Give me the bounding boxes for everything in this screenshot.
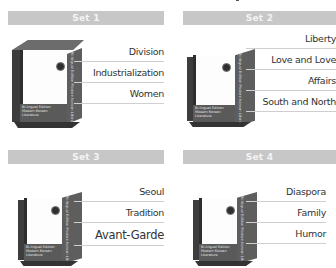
set-3-panel: Set 3 Bi-lingual Edition Modern Korean L…	[8, 150, 164, 268]
title-item[interactable]: Love and Love	[246, 54, 336, 70]
title-item[interactable]: Affairs	[246, 75, 336, 91]
title-item[interactable]: Diaspora	[246, 186, 326, 202]
set-4-header: Set 4	[183, 150, 336, 164]
box-title-label: Bi-lingual Edition Modern Korean Literat…	[24, 244, 66, 261]
title-item[interactable]: Family	[246, 207, 326, 223]
set-1-header: Set 1	[8, 11, 164, 25]
label-line: Literature	[195, 114, 236, 118]
box-bottom	[195, 261, 253, 266]
set-1-panel: Set 1 Bi-lingual Edition Modern Korean L…	[8, 11, 164, 131]
box-front-cover	[24, 198, 65, 244]
box-front-cover	[199, 198, 240, 244]
title-item[interactable]: Liberty	[246, 33, 336, 49]
box-title-label: Bi-lingual Edition Modern Korean Literat…	[193, 105, 238, 122]
box-front-cover	[20, 50, 67, 104]
title-item[interactable]: Women	[74, 88, 164, 104]
set-3-header: Set 3	[8, 150, 164, 164]
badge-icon	[56, 62, 65, 71]
set-4-title-list: Diaspora Family Humor	[246, 186, 326, 249]
badge-icon	[226, 206, 235, 215]
box-bottom	[20, 261, 78, 266]
title-item[interactable]: Seoul	[74, 186, 164, 202]
set-4-panel: Set 4 Bi-lingual Edition Modern Korean L…	[183, 150, 336, 268]
label-line: Literature	[201, 253, 239, 257]
badge-icon	[222, 63, 231, 72]
box-bottom	[189, 122, 251, 127]
box-bottom	[14, 122, 80, 128]
set-2-title-list: Liberty Love and Love Affairs South and …	[246, 33, 336, 117]
badge-icon	[51, 206, 60, 215]
label-line: Literature	[22, 113, 65, 117]
box-title-label: Bi-lingual Edition Modern Korean Literat…	[20, 104, 67, 122]
side-text: Bi-lingual Edition Modern Korean Literat…	[65, 196, 69, 264]
box-spine	[12, 50, 20, 122]
set-2-header: Set 2	[183, 11, 336, 25]
cropped-glyph	[236, 0, 239, 1]
title-item[interactable]: South and North	[246, 96, 336, 112]
label-line: Literature	[26, 253, 64, 257]
side-text: Bi-lingual Edition Modern Korean Literat…	[238, 53, 242, 127]
title-item[interactable]: Humor	[246, 228, 326, 244]
set-2-panel: Set 2 Bi-lingual Edition Modern Korean L…	[183, 11, 336, 131]
set-1-title-list: Division Industrialization Women	[74, 46, 164, 109]
set-3-title-list: Seoul Tradition Avant-Garde	[74, 186, 164, 251]
side-text: Bi-lingual Edition Modern Korean Literat…	[240, 196, 244, 264]
title-item[interactable]: Avant-Garde	[74, 228, 164, 246]
box-front-cover	[193, 55, 238, 105]
box-title-label: Bi-lingual Edition Modern Korean Literat…	[199, 244, 241, 261]
title-item[interactable]: Tradition	[74, 207, 164, 223]
title-item[interactable]: Division	[74, 46, 164, 62]
title-item[interactable]: Industrialization	[74, 67, 164, 83]
